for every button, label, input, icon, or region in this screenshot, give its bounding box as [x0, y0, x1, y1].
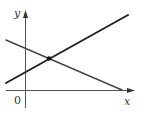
line-increasing	[6, 15, 128, 83]
x-axis-label: x	[124, 96, 130, 107]
y-axis-arrow-icon	[23, 10, 28, 18]
line-decreasing	[6, 40, 122, 90]
intersection-point	[47, 56, 51, 60]
x-axis-arrow-icon	[127, 88, 135, 93]
origin-label: 0	[14, 95, 21, 106]
y-axis-label: y	[14, 8, 20, 19]
